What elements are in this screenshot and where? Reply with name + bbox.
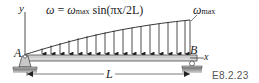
point-b-label: B	[190, 43, 197, 58]
sine-function: sin(πx/2L)	[93, 3, 144, 17]
load-arrows	[42, 21, 185, 54]
beam-diagram: ω = ωmax sin(πx/2L) ωmax y A B x L E8.2.…	[0, 0, 259, 83]
figure-id: E8.2.23	[212, 70, 249, 81]
length-label: L	[104, 67, 115, 82]
load-equation-label: ω = ωmax sin(πx/2L)	[46, 3, 143, 18]
wmax-symbol: ω	[67, 3, 75, 17]
point-a-label: A	[14, 46, 21, 61]
max-load-label: ωmax	[193, 3, 215, 18]
load-symbol: ω	[46, 3, 54, 17]
roller-support-b	[182, 61, 202, 73]
wmax-subscript: max	[76, 7, 90, 16]
max-load-subscript: max	[201, 7, 215, 16]
y-axis-label: y	[19, 2, 24, 14]
beam	[25, 55, 197, 61]
equals-sign: =	[57, 3, 64, 17]
distributed-load	[25, 15, 197, 55]
load-curve	[25, 20, 190, 55]
x-axis-label: x	[204, 51, 208, 62]
